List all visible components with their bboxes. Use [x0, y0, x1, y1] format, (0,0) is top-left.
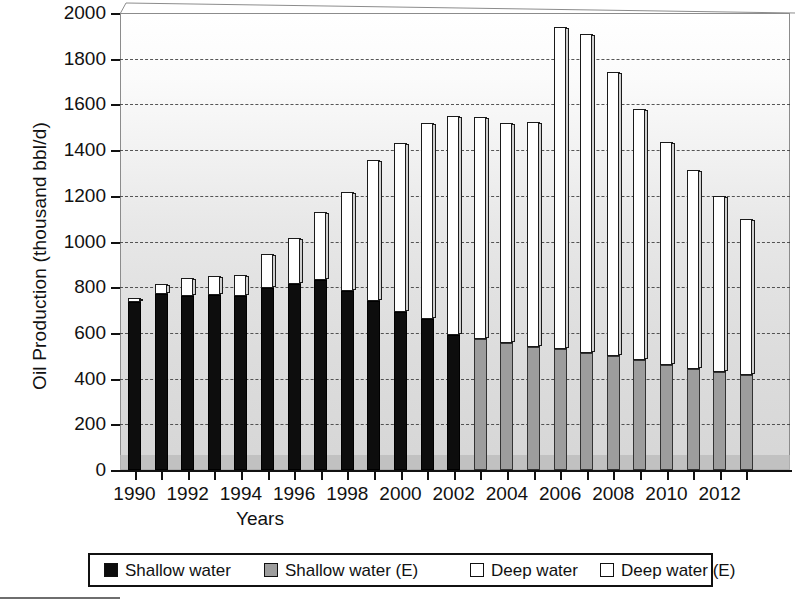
bar[interactable] [261, 254, 274, 470]
bar-segment-deep [421, 123, 434, 320]
bar-segment-deep [554, 27, 567, 349]
legend-item[interactable]: Shallow water [104, 562, 231, 579]
x-tick-mark [241, 470, 243, 480]
bar-3d-side [591, 35, 595, 353]
x-tick-label: 1996 [264, 483, 324, 505]
bar-3d-side [378, 161, 382, 300]
x-tick-mark [268, 470, 270, 480]
x-tick-mark [720, 470, 722, 480]
x-tick-mark [534, 470, 536, 480]
bar-segment-deep [633, 109, 646, 360]
legend-item[interactable]: Shallow water (E) [264, 562, 418, 579]
x-tick-mark [507, 470, 509, 480]
bar-segment-shallow [713, 372, 726, 470]
bar[interactable] [687, 170, 700, 470]
figure-root: Oil Production (thousand bbl/d) 02004006… [0, 0, 805, 602]
gridline [120, 104, 790, 105]
x-tick-label: 1992 [158, 483, 218, 505]
bar-segment-shallow [633, 360, 646, 470]
x-tick-label: 2010 [637, 483, 697, 505]
y-tick-mark [111, 470, 120, 472]
bar-3d-side [432, 124, 436, 319]
bar-segment-shallow [607, 356, 620, 470]
bar-3d-side [325, 213, 329, 280]
bar[interactable] [474, 117, 487, 470]
bar[interactable] [580, 34, 593, 470]
bar[interactable] [660, 142, 673, 470]
x-tick-mark [613, 470, 615, 480]
bar[interactable] [181, 278, 194, 470]
bar-segment-shallow [181, 296, 194, 470]
legend: Shallow waterShallow water (E)Deep water… [88, 553, 713, 587]
bar[interactable] [421, 123, 434, 470]
x-tick-label: 1998 [317, 483, 377, 505]
bar-segment-deep [181, 278, 194, 296]
bar[interactable] [234, 275, 247, 470]
bar[interactable] [155, 284, 168, 470]
y-tick-mark [111, 13, 120, 15]
y-tick-label: 200 [44, 414, 106, 433]
bar-3d-side [671, 143, 675, 364]
x-tick-label: 2000 [371, 483, 431, 505]
bar[interactable] [500, 123, 513, 470]
bar[interactable] [314, 212, 327, 470]
bar-segment-deep [607, 72, 620, 355]
bar[interactable] [341, 192, 354, 470]
bar-segment-shallow [341, 291, 354, 470]
y-tick-mark [111, 287, 120, 289]
bar-segment-shallow [234, 296, 247, 470]
bar-segment-deep [447, 116, 460, 335]
bar[interactable] [128, 297, 141, 470]
bar[interactable] [447, 116, 460, 470]
x-tick-mark [188, 470, 190, 480]
x-tick-mark [294, 470, 296, 480]
bar[interactable] [208, 276, 221, 470]
y-tick-mark [111, 333, 120, 335]
x-tick-mark [560, 470, 562, 480]
legend-item[interactable]: Deep water [470, 562, 578, 579]
bar-segment-deep [527, 122, 540, 347]
plot-top-3d-edge [120, 2, 795, 14]
x-tick-group [120, 470, 792, 482]
y-tick-label: 2000 [44, 3, 106, 22]
bar-segment-deep [687, 170, 700, 370]
bar[interactable] [713, 196, 726, 470]
x-tick-label: 2002 [424, 483, 484, 505]
bar-segment-deep [394, 143, 407, 312]
bar[interactable] [527, 122, 540, 470]
bar[interactable] [554, 27, 567, 470]
bar-3d-side [644, 110, 648, 359]
y-tick-mark [111, 59, 120, 61]
bar-segment-deep [155, 284, 168, 294]
x-tick-mark [746, 470, 748, 480]
gridline [120, 59, 790, 60]
bar[interactable] [740, 219, 753, 470]
bar-3d-side [618, 73, 622, 354]
bar-3d-side [192, 279, 196, 295]
legend-label: Shallow water (E) [285, 562, 418, 579]
bar[interactable] [394, 143, 407, 470]
bar-3d-side [139, 299, 143, 302]
bar-3d-side [538, 123, 542, 346]
bar-segment-shallow [208, 295, 221, 470]
bar-segment-deep [580, 34, 593, 354]
bar[interactable] [607, 72, 620, 470]
bar-3d-side [219, 277, 223, 294]
y-tick-label: 1400 [44, 140, 106, 159]
y-tick-label: 400 [44, 369, 106, 388]
x-tick-mark [214, 470, 216, 480]
x-tick-mark [427, 470, 429, 480]
bar-segment-shallow [128, 302, 141, 470]
legend-swatch-white [470, 563, 484, 577]
legend-swatch-gray [264, 563, 278, 577]
bar-3d-side [724, 197, 728, 371]
legend-item[interactable]: Deep water (E) [600, 562, 735, 579]
bar[interactable] [367, 160, 380, 470]
bar[interactable] [633, 109, 646, 470]
x-axis-title: Years [0, 508, 520, 530]
x-tick-mark [454, 470, 456, 480]
bar-segment-shallow [740, 375, 753, 470]
bar-segment-deep [474, 117, 487, 339]
page-edge-rule [0, 597, 120, 599]
bar[interactable] [288, 238, 301, 470]
